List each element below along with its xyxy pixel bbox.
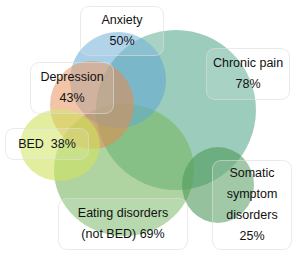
eating-disorders-label: Eating disorders (not BED) 69%	[58, 198, 188, 250]
somatic-value: 25%	[213, 226, 291, 247]
chronic-pain-value: 78%	[207, 74, 289, 95]
depression-label: Depression 43%	[30, 62, 114, 114]
somatic-name-2: symptom	[213, 184, 291, 205]
bed-label: BED 38%	[5, 128, 89, 160]
chronic-pain-name: Chronic pain	[207, 53, 289, 74]
eating-disorders-name: Eating disorders	[59, 203, 187, 224]
depression-value: 43%	[31, 88, 113, 109]
anxiety-value: 50%	[81, 31, 163, 52]
somatic-name-3: disorders	[213, 205, 291, 226]
bed-name-value: BED 38%	[6, 134, 88, 155]
somatic-name-1: Somatic	[213, 163, 291, 184]
depression-name: Depression	[31, 67, 113, 88]
anxiety-name: Anxiety	[81, 10, 163, 31]
anxiety-label: Anxiety 50%	[80, 6, 164, 56]
somatic-label: Somatic symptom disorders 25%	[212, 160, 292, 250]
eating-disorders-value: (not BED) 69%	[59, 224, 187, 245]
chronic-pain-label: Chronic pain 78%	[206, 48, 290, 100]
